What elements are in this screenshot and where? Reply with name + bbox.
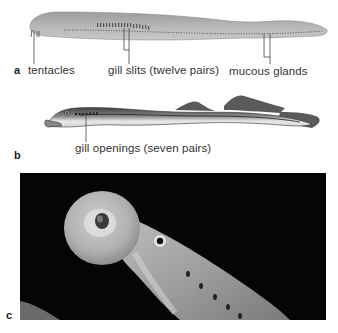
label-mucous-glands: mucous glands bbox=[229, 65, 308, 77]
panel-letter-b: b bbox=[14, 149, 21, 161]
panel-c: c bbox=[0, 165, 338, 333]
lamprey-photo bbox=[20, 173, 326, 320]
panel-letter-c: c bbox=[6, 309, 12, 321]
label-gill-openings: gill openings (seven pairs) bbox=[75, 142, 211, 154]
panel-b: b gill openings (seven pairs) bbox=[0, 80, 338, 170]
panel-a: a tentacles gill slits (twelve pairs) mu… bbox=[0, 0, 338, 80]
panel-letter-a: a bbox=[14, 64, 20, 76]
label-tentacles: tentacles bbox=[28, 64, 75, 76]
label-gill-slits: gill slits (twelve pairs) bbox=[108, 64, 219, 76]
lamprey-illustration bbox=[0, 80, 338, 170]
